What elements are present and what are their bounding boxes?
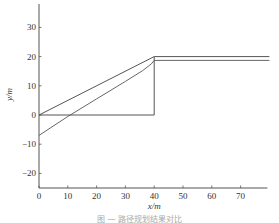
y-tick-label: −20 bbox=[22, 168, 37, 178]
y-tick-label: 0 bbox=[32, 110, 37, 120]
x-tick-label: 20 bbox=[92, 191, 102, 201]
x-tick-label: 50 bbox=[179, 191, 189, 201]
y-tick-label: 30 bbox=[27, 22, 37, 32]
y-axis-label: y/m bbox=[4, 88, 14, 102]
x-tick-label: 40 bbox=[150, 191, 160, 201]
x-tick-label: 10 bbox=[63, 191, 73, 201]
x-tick-label: 60 bbox=[207, 191, 217, 201]
figure-caption: 图 — 路径规划结果对比 bbox=[0, 213, 279, 223]
x-axis-label: x/m bbox=[147, 201, 161, 211]
y-tick-label: −10 bbox=[22, 139, 37, 149]
x-tick-label: 0 bbox=[37, 191, 42, 201]
x-tick-label: 30 bbox=[121, 191, 131, 201]
x-tick-label: 70 bbox=[236, 191, 246, 201]
y-tick-label: 10 bbox=[27, 81, 37, 91]
line-chart: −20−100102030010203040506070x/my/m bbox=[0, 0, 279, 223]
y-tick-label: 20 bbox=[27, 52, 37, 62]
